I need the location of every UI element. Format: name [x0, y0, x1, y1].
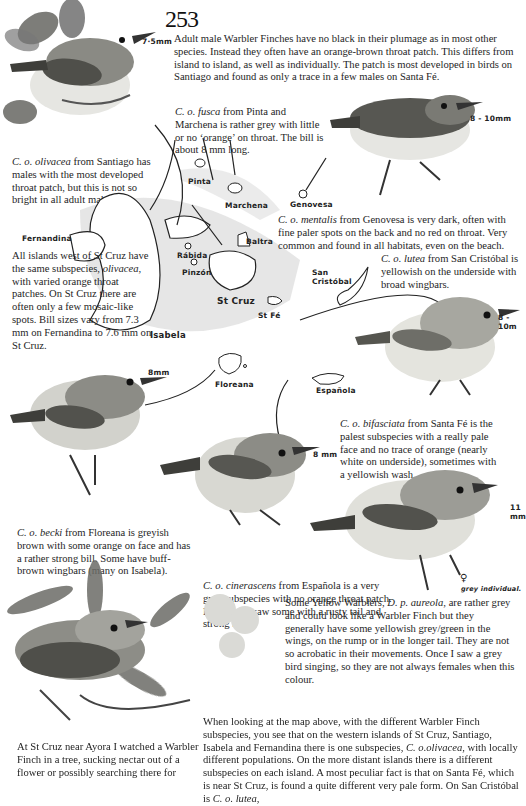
bird-illustration-acacia	[0, 560, 260, 725]
taxon-name: C. o. becki	[17, 527, 62, 538]
taxon-name: D. p. aureola	[387, 597, 443, 608]
paragraph-text: ,	[257, 793, 260, 804]
map-label-pinzon: Pinzón	[182, 268, 211, 277]
bill-measurement-label: 8 - 10mm	[470, 114, 511, 123]
caption-west-islands: All islands west of St Cruz have the sam…	[12, 250, 152, 352]
map-label-pinta: Pinta	[188, 177, 211, 186]
genovesa-island	[298, 178, 338, 218]
bird-illustration-becki	[5, 375, 175, 495]
caption-mentalis: C. o. mentalis from Genovesa is very dar…	[278, 214, 523, 252]
paragraph-text: , are rather grey and could look like a …	[285, 597, 514, 685]
taxon-name: C. o. lutea	[213, 793, 257, 804]
paragraph-ayora: At St Cruz near Ayora I watched a Warble…	[17, 741, 202, 779]
map-label-fernandina: Fernandina	[22, 234, 72, 243]
female-symbol: ♀	[460, 572, 468, 583]
label-part: Cristóbal	[312, 277, 352, 286]
bird-illustration-top-left	[0, 0, 170, 135]
paragraph-map-summary: When looking at the map above, with the …	[203, 716, 521, 806]
female-note: grey individual.	[461, 585, 522, 593]
taxon-name: C. o. bifasciata	[340, 418, 405, 429]
taxon-name: C. o. fusca	[175, 106, 220, 117]
caption-text: , with varied orange throat patches. On …	[12, 263, 151, 351]
taxon-name: C. o.olivacea	[406, 742, 462, 753]
map-label-st-fe: St Fé	[258, 311, 281, 320]
taxon-name: olivacea	[103, 263, 139, 274]
map-label-genovesa: Genovesa	[290, 200, 333, 209]
paragraph-text: Some Yellow Warblers,	[285, 597, 387, 608]
map-label-st-cruz: St Cruz	[217, 296, 255, 306]
bird-illustration-grey-individual	[310, 465, 510, 595]
map-label-marchena: Marchena	[225, 201, 268, 210]
bill-measurement-label: 8 - 10m	[498, 313, 525, 331]
intro-paragraph: Adult male Warbler Finches have no black…	[174, 33, 520, 84]
map-label-baltra: Baltra	[246, 237, 273, 246]
bill-measurement-label: 7·5mm	[142, 37, 172, 46]
bird-illustration-cinerascens	[160, 385, 330, 525]
map-label-isabela: Isabela	[150, 330, 186, 340]
map-label-san-cristobal: SanCristóbal	[312, 268, 352, 286]
taxon-name: C. o. lutea	[381, 253, 425, 264]
bill-measurement-label: 11 mm	[510, 503, 526, 521]
bill-measurement-label: 8 mm	[313, 450, 337, 459]
paragraph-yellow-warbler: Some Yellow Warblers, D. p. aureola, are…	[285, 597, 515, 687]
map-label-rabida: Rábida	[177, 251, 207, 260]
taxon-name: C. o. mentalis	[278, 214, 337, 225]
bill-measurement-label: 8mm	[148, 368, 169, 377]
st-fe-island	[266, 295, 286, 309]
bird-illustration-lutea	[350, 285, 525, 395]
label-part: San	[312, 268, 328, 277]
floreana-island	[215, 350, 255, 380]
